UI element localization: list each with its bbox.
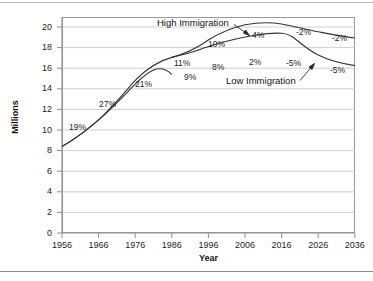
x-tick-label: 1986 xyxy=(155,241,189,250)
annotation-21pct: 21% xyxy=(135,80,152,89)
gridlines xyxy=(62,27,355,212)
y-axis-title: Millions xyxy=(10,87,20,147)
x-tick-label: 2006 xyxy=(228,241,262,250)
annotation-neg2pct-b: -2% xyxy=(332,34,347,43)
annotation-neg5pct-a: -5% xyxy=(286,59,301,68)
y-tick-label: 8 xyxy=(30,146,52,155)
chart-figure: 20 18 16 14 12 10 8 6 4 2 0 1956 1966 19… xyxy=(0,0,373,281)
y-tick-label: 16 xyxy=(30,64,52,73)
x-tick-label: 2036 xyxy=(338,241,372,250)
annotation-4pct: 4% xyxy=(252,31,264,40)
y-tick-label: 2 xyxy=(30,208,52,217)
chart-canvas xyxy=(0,0,373,281)
annotation-neg2pct-a: -2% xyxy=(296,28,311,37)
annotation-8pct: 8% xyxy=(212,63,224,72)
series-label-low-immigration: Low Immigration xyxy=(226,76,296,86)
annotation-10pct: 10% xyxy=(208,40,225,49)
series-line-high-immigration xyxy=(62,69,172,147)
y-tick-label: 12 xyxy=(30,105,52,114)
high-immigration-leader xyxy=(234,25,250,36)
x-tick-marks xyxy=(62,233,355,238)
x-tick-label: 2016 xyxy=(265,241,299,250)
annotation-9pct: 9% xyxy=(184,73,196,82)
x-tick-label: 1966 xyxy=(82,241,116,250)
y-tick-marks xyxy=(57,27,62,233)
annotation-neg5pct-b: -5% xyxy=(330,66,345,75)
series-label-high-immigration: High Immigration xyxy=(157,18,229,28)
y-tick-label: 14 xyxy=(30,84,52,93)
x-tick-label: 2026 xyxy=(301,241,335,250)
x-tick-label: 1976 xyxy=(118,241,152,250)
x-axis-title: Year xyxy=(62,253,355,263)
y-tick-label: 18 xyxy=(30,43,52,52)
annotation-19pct: 19% xyxy=(69,123,86,132)
annotation-27pct: 27% xyxy=(99,100,116,109)
y-tick-label: 10 xyxy=(30,126,52,135)
annotation-2pct: 2% xyxy=(249,58,261,67)
y-tick-label: 4 xyxy=(30,187,52,196)
y-tick-label: 20 xyxy=(30,23,52,32)
low-immigration-leader xyxy=(300,64,315,81)
x-tick-label: 1956 xyxy=(45,241,79,250)
y-tick-label: 0 xyxy=(30,229,52,238)
x-tick-label: 1996 xyxy=(191,241,225,250)
y-tick-label: 6 xyxy=(30,167,52,176)
annotation-11pct: 11% xyxy=(174,59,190,68)
